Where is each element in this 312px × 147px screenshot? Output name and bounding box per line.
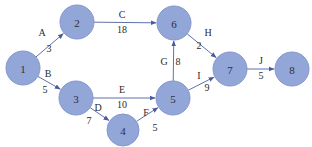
node-label: 6: [171, 18, 177, 30]
duration-label: 7: [87, 115, 92, 126]
duration-label: 5: [259, 70, 264, 81]
activity-label: I: [197, 70, 200, 81]
duration-label: 9: [205, 82, 210, 93]
duration-label: 3: [47, 43, 52, 54]
network-diagram: A3B5C18E10D7F5G8H2I9J5 12345678: [0, 0, 312, 147]
activity-label: B: [45, 68, 52, 79]
duration-label: 2: [197, 40, 202, 51]
edge-h: H2: [187, 27, 216, 58]
nodes-layer: 12345678: [6, 5, 309, 146]
duration-label: 10: [117, 99, 127, 110]
node-2: 2: [60, 5, 94, 39]
activity-label: F: [143, 107, 149, 118]
edge-b: B5: [38, 68, 61, 95]
duration-label: 18: [117, 24, 127, 35]
node-label: 4: [120, 125, 126, 137]
edge-f: F5: [136, 107, 157, 133]
node-label: 1: [20, 63, 26, 75]
node-label: 7: [227, 64, 233, 76]
activity-label: A: [38, 27, 46, 38]
edge-i: I9: [188, 70, 214, 93]
arrow-line: [187, 34, 216, 58]
activity-label: C: [119, 9, 126, 20]
edge-c: C18: [94, 9, 156, 35]
node-6: 6: [157, 6, 191, 40]
node-1: 1: [6, 51, 40, 85]
node-label: 3: [73, 93, 79, 105]
arrow-line: [173, 41, 174, 81]
activity-label: H: [204, 27, 211, 38]
edge-a: A3: [36, 27, 63, 57]
node-5: 5: [156, 81, 190, 115]
node-4: 4: [107, 114, 139, 146]
node-label: 2: [74, 17, 80, 29]
duration-label: 5: [43, 84, 48, 95]
duration-label: 8: [176, 56, 181, 67]
edge-g: G8: [160, 41, 180, 81]
activity-label: D: [94, 102, 101, 113]
edge-j: J5: [247, 55, 274, 81]
node-label: 8: [289, 64, 295, 76]
node-8: 8: [275, 52, 309, 86]
activity-label: E: [119, 84, 125, 95]
arrow-line: [188, 77, 214, 90]
node-7: 7: [213, 52, 247, 86]
activity-label: J: [259, 55, 263, 66]
duration-label: 5: [153, 122, 158, 133]
activity-label: G: [160, 56, 167, 67]
node-3: 3: [59, 81, 93, 115]
node-label: 5: [170, 93, 176, 105]
